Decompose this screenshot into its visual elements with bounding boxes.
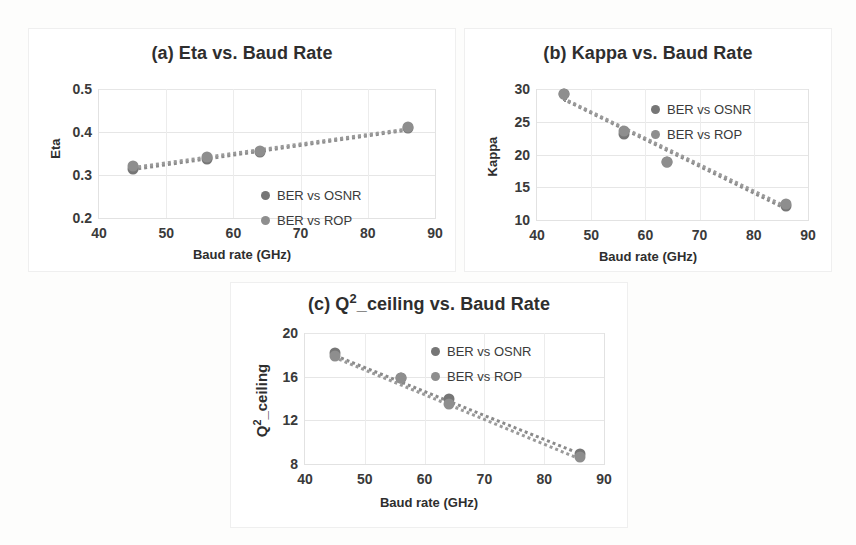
data-point-marker bbox=[403, 121, 414, 132]
x-axis-tick-label: 50 bbox=[357, 471, 373, 487]
panel-c-legend: BER vs OSNR BER vs ROP bbox=[431, 345, 532, 394]
x-axis-tick-label: 50 bbox=[158, 225, 174, 241]
panel-b-y-axis-title: Kappa bbox=[485, 122, 500, 192]
legend-marker-icon bbox=[431, 372, 440, 381]
x-axis-tick-label: 60 bbox=[638, 227, 654, 243]
x-axis-tick-label: 90 bbox=[596, 471, 612, 487]
gridline-horizontal bbox=[305, 420, 604, 421]
gridline-horizontal bbox=[99, 89, 435, 90]
gridline-horizontal bbox=[99, 175, 435, 176]
legend-marker-icon bbox=[261, 191, 270, 200]
data-point-marker bbox=[127, 161, 138, 172]
data-point-marker bbox=[395, 372, 406, 383]
y-axis-tick-label: 8 bbox=[290, 456, 298, 472]
chart-panel-c: (c) Q2_ceiling vs. Baud Rate Q2_ceiling … bbox=[230, 282, 628, 528]
y-axis-tick-label: 0.5 bbox=[73, 81, 92, 97]
gridline-vertical bbox=[591, 89, 592, 220]
legend-marker-icon bbox=[651, 105, 660, 114]
x-axis-tick-label: 90 bbox=[427, 225, 443, 241]
legend-marker-icon bbox=[651, 130, 660, 139]
gridline-vertical bbox=[754, 89, 755, 220]
legend-label: BER vs OSNR bbox=[277, 189, 362, 203]
legend-entry-ber-vs-osnr: BER vs OSNR bbox=[651, 103, 752, 117]
x-axis-tick-label: 80 bbox=[360, 225, 376, 241]
chart-panel-a: (a) Eta vs. Baud Rate Eta Baud rate (GHz… bbox=[28, 28, 456, 272]
panel-a-x-axis-title: Baud rate (GHz) bbox=[29, 247, 455, 262]
x-axis-tick-label: 60 bbox=[417, 471, 433, 487]
figure-root: (a) Eta vs. Baud Rate Eta Baud rate (GHz… bbox=[0, 0, 856, 545]
x-axis-tick-label: 40 bbox=[297, 471, 313, 487]
gridline-horizontal bbox=[537, 187, 808, 188]
y-axis-tick-label: 15 bbox=[514, 179, 530, 195]
x-axis-tick-label: 90 bbox=[800, 227, 816, 243]
y-axis-tick-label: 0.4 bbox=[73, 124, 92, 140]
panel-b-title: (b) Kappa vs. Baud Rate bbox=[465, 43, 831, 64]
x-axis-tick-label: 80 bbox=[746, 227, 762, 243]
panel-a-title: (a) Eta vs. Baud Rate bbox=[29, 43, 455, 64]
legend-entry-ber-vs-rop: BER vs ROP bbox=[431, 370, 532, 384]
x-axis-tick-label: 80 bbox=[536, 471, 552, 487]
x-axis-tick-label: 40 bbox=[91, 225, 107, 241]
y-axis-tick-label: 20 bbox=[514, 147, 530, 163]
x-axis-tick-label: 50 bbox=[583, 227, 599, 243]
gridline-vertical bbox=[166, 89, 167, 218]
y-axis-tick-label: 25 bbox=[514, 114, 530, 130]
panel-c-y-axis-title: Q2_ceiling bbox=[251, 346, 270, 456]
legend-label: BER vs ROP bbox=[447, 370, 522, 384]
legend-entry-ber-vs-osnr: BER vs OSNR bbox=[431, 345, 532, 359]
legend-entry-ber-vs-rop: BER vs ROP bbox=[261, 214, 362, 228]
panel-c-x-axis-title: Baud rate (GHz) bbox=[231, 495, 627, 510]
legend-label: BER vs OSNR bbox=[447, 345, 532, 359]
data-point-marker bbox=[201, 151, 212, 162]
panel-b-x-axis-title: Baud rate (GHz) bbox=[465, 249, 831, 264]
gridline-vertical bbox=[368, 89, 369, 218]
gridline-horizontal bbox=[305, 333, 604, 334]
chart-panel-b: (b) Kappa vs. Baud Rate Kappa Baud rate … bbox=[464, 28, 832, 272]
y-axis-tick-label: 0.3 bbox=[73, 167, 92, 183]
legend-entry-ber-vs-rop: BER vs ROP bbox=[651, 128, 752, 142]
legend-entry-ber-vs-osnr: BER vs OSNR bbox=[261, 189, 362, 203]
x-axis-tick-label: 40 bbox=[529, 227, 545, 243]
x-axis-tick-label: 70 bbox=[692, 227, 708, 243]
data-point-marker bbox=[443, 398, 454, 409]
gridline-vertical bbox=[365, 333, 366, 464]
legend-label: BER vs ROP bbox=[277, 214, 352, 228]
x-axis-tick-label: 60 bbox=[226, 225, 242, 241]
gridline-vertical bbox=[425, 333, 426, 464]
y-axis-tick-label: 0.2 bbox=[73, 210, 92, 226]
legend-label: BER vs OSNR bbox=[667, 103, 752, 117]
panel-a-legend: BER vs OSNR BER vs ROP bbox=[261, 189, 362, 238]
legend-label: BER vs ROP bbox=[667, 128, 742, 142]
y-axis-tick-label: 30 bbox=[514, 81, 530, 97]
y-axis-tick-label: 16 bbox=[282, 369, 298, 385]
panel-b-legend: BER vs OSNR BER vs ROP bbox=[651, 103, 752, 152]
y-axis-tick-label: 20 bbox=[282, 325, 298, 341]
data-point-marker bbox=[575, 452, 586, 463]
legend-marker-icon bbox=[431, 347, 440, 356]
gridline-vertical bbox=[645, 89, 646, 220]
x-axis-tick-label: 70 bbox=[477, 471, 493, 487]
data-point-marker bbox=[618, 125, 629, 136]
data-point-marker bbox=[559, 88, 570, 99]
legend-marker-icon bbox=[261, 216, 270, 225]
panel-c-title: (c) Q2_ceiling vs. Baud Rate bbox=[231, 291, 627, 315]
data-point-marker bbox=[662, 156, 673, 167]
y-axis-tick-label: 12 bbox=[282, 412, 298, 428]
data-point-marker bbox=[781, 198, 792, 209]
gridline-horizontal bbox=[537, 89, 808, 90]
panel-a-y-axis-title: Eta bbox=[48, 119, 63, 179]
y-axis-tick-label: 10 bbox=[514, 212, 530, 228]
data-point-marker bbox=[329, 350, 340, 361]
data-point-marker bbox=[255, 145, 266, 156]
